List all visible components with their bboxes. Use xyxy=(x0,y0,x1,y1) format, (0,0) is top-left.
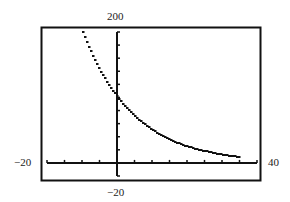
plot-area xyxy=(0,0,290,202)
curve-path xyxy=(82,32,241,157)
function-curve xyxy=(82,32,241,157)
viewing-window-frame xyxy=(42,28,261,181)
